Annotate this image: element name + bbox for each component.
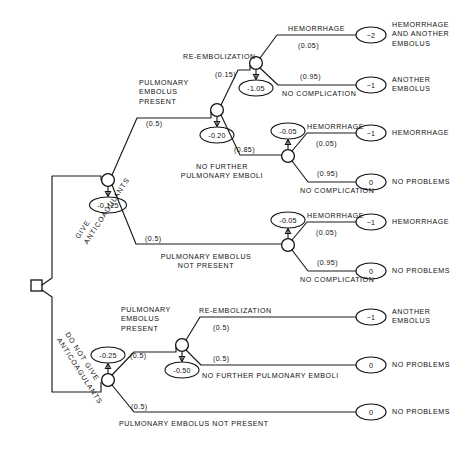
probability-give-pe-present: (0.5) bbox=[146, 120, 163, 128]
terminal-value: −1 bbox=[367, 313, 376, 322]
probability-no-complication-mid: (0.95) bbox=[317, 170, 338, 178]
edge-label-line: NOT PRESENT bbox=[161, 262, 252, 271]
chance-node-pulmonary-embolus-present[interactable] bbox=[211, 104, 224, 117]
ev-value-pe-not-present: -0.05 bbox=[279, 216, 296, 225]
terminal-value: 0 bbox=[369, 178, 373, 187]
edge-lower-no-further bbox=[186, 350, 356, 365]
edge-label-pulmonary-embolus-not-present-inline: PULMONARY EMBOLUS NOT PRESENT bbox=[119, 420, 269, 429]
chance-node-pulmonary-embolus-not-present[interactable] bbox=[282, 239, 295, 252]
outcome-line: EMBOLUS bbox=[392, 317, 431, 326]
terminal-outcome-label: ANOTHER EMBOLUS bbox=[392, 76, 431, 95]
chance-node-no-further-pulmonary-emboli[interactable] bbox=[282, 150, 295, 163]
terminal-value: 0 bbox=[369, 361, 373, 370]
outcome-line: AND ANOTHER bbox=[392, 30, 449, 39]
edge-label-line: PULMONARY bbox=[139, 79, 189, 88]
probability-give-pe-not-present: (0.5) bbox=[145, 235, 162, 243]
ev-value-do-not-give: -0.25 bbox=[99, 351, 116, 360]
terminal-value: −2 bbox=[367, 31, 376, 40]
edge-label-pulmonary-embolus-present-lower: PULMONARY EMBOLUS PRESENT bbox=[121, 306, 171, 334]
chance-node-pulmonary-embolus-present-lower[interactable] bbox=[176, 339, 189, 352]
terminal-outcome-label: HEMORRHAGE bbox=[392, 218, 449, 227]
edge-do-not-give-to-pe-not-present bbox=[112, 385, 356, 412]
probability-no-complication-top: (0.95) bbox=[300, 73, 321, 81]
edge-give-to-pe-not-present bbox=[112, 185, 282, 244]
edge-label-no-further-pulmonary-emboli: NO FURTHER PULMONARY EMBOLI bbox=[181, 163, 263, 182]
probability-re-embolization: (0.15) bbox=[215, 71, 236, 79]
edge-label-pulmonary-embolus-not-present: PULMONARY EMBOLUS NOT PRESENT bbox=[161, 253, 252, 272]
terminal-value: −1 bbox=[367, 218, 376, 227]
outcome-line: HEMORRHAGE bbox=[392, 21, 449, 30]
edge-label-re-embolization: RE-EMBOLIZATION bbox=[183, 53, 256, 62]
terminal-outcome-label: ANOTHER EMBOLUS bbox=[392, 308, 431, 327]
probability-no-complication-low: (0.95) bbox=[317, 259, 338, 267]
edge-label-no-complication: NO COMPLICATION bbox=[282, 90, 356, 99]
probability-hemorrhage-low: (0.05) bbox=[316, 229, 337, 237]
terminal-value: 0 bbox=[369, 408, 373, 417]
edge-label-hemorrhage: HEMORRHAGE bbox=[307, 123, 364, 132]
ev-value-no-further: -0.05 bbox=[279, 127, 296, 136]
probability-do-not-give-pe-present: (0.5) bbox=[130, 352, 147, 360]
edge-label-line: PRESENT bbox=[139, 98, 189, 107]
root-decision-node[interactable] bbox=[31, 280, 42, 291]
edge-label-re-embolization-lower: RE-EMBOLIZATION bbox=[199, 307, 272, 316]
edge-label-line: PULMONARY bbox=[121, 306, 171, 315]
terminal-outcome-label: HEMORRHAGE AND ANOTHER EMBOLUS bbox=[392, 21, 449, 49]
edge-label-line: PRESENT bbox=[121, 325, 171, 334]
edge-label-line: EMBOLUS bbox=[121, 315, 171, 324]
terminal-value: 0 bbox=[369, 267, 373, 276]
probability-do-not-give-pe-not-present: (0.5) bbox=[131, 403, 148, 411]
terminal-outcome-label: NO PROBLEMS bbox=[392, 361, 450, 370]
probability-hemorrhage-mid: (0.05) bbox=[316, 140, 337, 148]
probability-do-not-give-no-further: (0.5) bbox=[213, 355, 230, 363]
ev-value-give: -0.125 bbox=[97, 201, 119, 210]
ev-value-re-embolization: -1.05 bbox=[247, 84, 264, 93]
probability-hemorrhage-top: (0.05) bbox=[298, 42, 319, 50]
edge-label-line: NO FURTHER bbox=[181, 163, 263, 172]
probability-no-further-emboli: (0.85) bbox=[234, 146, 255, 154]
edge-label-no-further-pulmonary-emboli-inline: NO FURTHER PULMONARY EMBOLI bbox=[202, 372, 339, 381]
decision-tree-diagram: GIVE ANTICOAGULANTS DO NOT GIVE ANTICOAG… bbox=[0, 0, 464, 450]
probability-do-not-give-re-embolization: (0.5) bbox=[213, 324, 230, 332]
edge-label-no-complication: NO COMPLICATION bbox=[300, 276, 374, 285]
terminal-outcome-label: NO PROBLEMS bbox=[392, 267, 450, 276]
edge-label-hemorrhage: HEMORRHAGE bbox=[288, 25, 345, 34]
edge-lower-re-embolization bbox=[186, 317, 356, 340]
edge-label-pulmonary-embolus-present: PULMONARY EMBOLUS PRESENT bbox=[139, 79, 189, 107]
ev-value-pe-present: -0.20 bbox=[208, 131, 225, 140]
edge-label-line: PULMONARY EMBOLI bbox=[181, 172, 263, 181]
outcome-line: EMBOLUS bbox=[392, 40, 449, 49]
outcome-line: ANOTHER bbox=[392, 308, 431, 317]
terminal-outcome-label: HEMORRHAGE bbox=[392, 129, 449, 138]
outcome-line: ANOTHER bbox=[392, 76, 431, 85]
edge-label-no-complication: NO COMPLICATION bbox=[300, 187, 374, 196]
terminal-outcome-label: NO PROBLEMS bbox=[392, 408, 450, 417]
terminal-value: −1 bbox=[367, 129, 376, 138]
edge-label-line: EMBOLUS bbox=[139, 88, 189, 97]
outcome-line: EMBOLUS bbox=[392, 85, 431, 94]
terminal-outcome-label: NO PROBLEMS bbox=[392, 178, 450, 187]
terminal-value: −1 bbox=[367, 81, 376, 90]
edge-label-line: PULMONARY EMBOLUS bbox=[161, 253, 252, 262]
ev-value-pe-present-lower: -0.50 bbox=[173, 366, 190, 375]
edge-label-hemorrhage: HEMORRHAGE bbox=[307, 212, 364, 221]
